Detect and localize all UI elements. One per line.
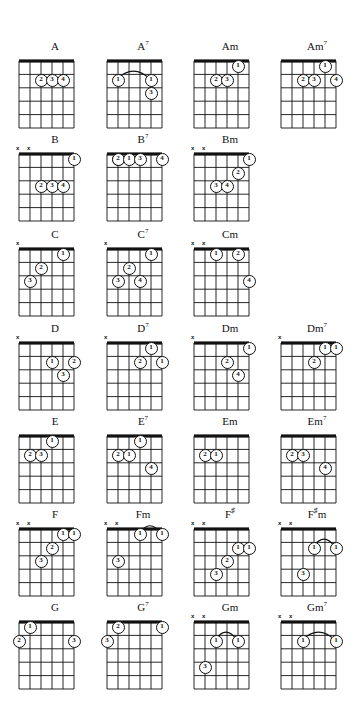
chord-diagram-am7: Am71234 [277,40,355,132]
mute-marker-row: xx [280,520,354,527]
chord-diagram-dm7: Dm7x112 [277,322,355,414]
fretboard-grid [18,434,73,501]
fretboard-grid [193,152,248,219]
chord-diagram-d7: D7x121 [103,322,183,414]
sharp-icon: ♯ [231,506,235,515]
mute-marker-row: xx [18,520,92,527]
mute-string-icon: x [16,334,19,341]
mute-string-icon: x [202,145,205,152]
chord-diagram-e7: E71214 [103,415,183,507]
chord-diagram-fsharpm: F♯mxx113 [277,508,355,600]
mute-string-icon: x [16,145,19,152]
chord-quality: m [315,322,324,334]
mute-string-icon: x [191,520,194,527]
mute-string-icon: x [278,613,281,620]
mute-string-icon: x [202,240,205,247]
mute-string-icon: x [27,520,30,527]
mute-marker-row [106,613,180,620]
fretboard-grid [193,527,248,594]
chord-diagram-em7: Em7234 [277,415,355,507]
chord-seventh: 7 [145,321,149,329]
chord-diagram-b: Bxx1234 [15,133,95,225]
chord-root: G [307,601,315,613]
mute-string-icon: x [278,520,281,527]
fretboard-grid [193,434,248,501]
chord-diagram-em: Em21 [190,415,270,507]
mute-marker-row [280,52,354,59]
fretboard-grid [106,59,161,126]
chord-seventh: 7 [145,39,149,47]
mute-string-icon: x [191,613,194,620]
mute-string-icon: x [16,240,19,247]
chord-quality: m [230,601,239,613]
fretboard-grid [280,59,335,126]
chord-diagram-cm: Cmxx124 [190,228,270,320]
fretboard-grid [106,247,161,314]
mute-marker-row [106,145,180,152]
chord-seventh: 7 [145,227,149,235]
chord-diagram-a: A234 [15,40,95,132]
chord-seventh: 7 [323,414,327,422]
fretboard-grid [280,434,335,501]
mute-marker-row [18,427,92,434]
mute-marker-row: xx [193,145,267,152]
chord-diagram-f: Fxx1123 [15,508,95,600]
chord-diagram-d: Dx123 [15,322,95,414]
mute-string-icon: x [27,145,30,152]
chord-chart-sheet: A234A7113Am123Am71234Bxx1234B722134Bmxx1… [0,0,355,709]
mute-string-icon: x [202,613,205,620]
mute-marker-row [193,52,267,59]
fretboard-grid [193,247,248,314]
mute-marker-row: xx [280,613,354,620]
chord-root: C [138,228,145,240]
chord-diagram-gm: Gmxx113 [190,601,270,693]
chord-diagram-fsharp: F♯xx1123 [190,508,270,600]
chord-diagram-am: Am123 [190,40,270,132]
chord-root: A [222,40,230,52]
chord-diagram-c: Cx123 [15,228,95,320]
fretboard-grid [280,527,335,594]
mute-marker-row: x [18,334,92,341]
fretboard-grid [193,341,248,408]
chord-root: G [222,601,230,613]
fretboard-grid [18,620,73,687]
chord-seventh: 7 [324,600,328,608]
chord-diagram-gm7: Gm7xx11 [277,601,355,693]
mute-marker-row: x [106,240,180,247]
chord-quality: m [315,40,324,52]
chord-root: A [51,40,59,52]
mute-string-icon: x [16,520,19,527]
fretboard-grid [18,341,73,408]
mute-string-icon: x [202,520,205,527]
chord-root: E [138,415,145,427]
chord-root: B [138,133,145,145]
chord-quality: m [314,415,323,427]
mute-marker-row: xx [18,145,92,152]
fretboard-grid [193,620,248,687]
chord-quality: m [229,228,238,240]
chord-diagram-g7: G7123 [103,601,183,693]
mute-string-icon: x [289,613,292,620]
chord-root: C [51,228,58,240]
chord-root: D [51,322,59,334]
fretboard-grid [18,527,73,594]
mute-string-icon: x [104,520,107,527]
chord-seventh: 7 [145,414,149,422]
chord-diagram-fm: Fmxx113 [103,508,183,600]
chord-seventh: 7 [145,132,149,140]
chord-root: A [307,40,315,52]
fretboard-grid [106,527,161,594]
mute-marker-row: xx [193,613,267,620]
fretboard-grid [18,59,73,126]
chord-root: E [52,415,59,427]
chord-quality: m [229,133,238,145]
chord-diagram-g: G123 [15,601,95,693]
mute-marker-row: xx [193,520,267,527]
chord-quality: m [315,601,324,613]
mute-string-icon: x [289,520,292,527]
mute-marker-row: xx [193,240,267,247]
fretboard-grid [106,152,161,219]
mute-marker-row: x [18,240,92,247]
chord-root: D [222,322,230,334]
chord-quality: m [142,508,151,520]
